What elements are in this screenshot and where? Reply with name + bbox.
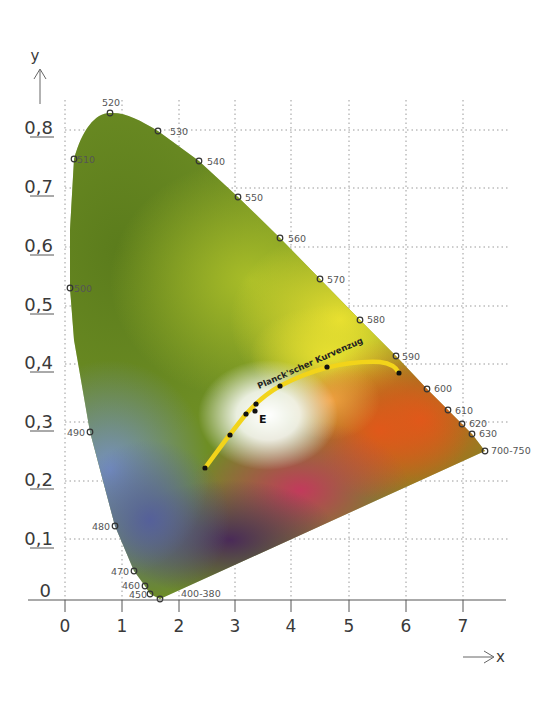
- wl-label-520: 520: [102, 97, 120, 108]
- color-gamut-fill: [0, 50, 530, 610]
- y-axis: y 0,8 0,7 0,6 0,5 0,4 0,3 0,2 0,1 0: [24, 47, 54, 601]
- wl-label-550: 550: [245, 192, 263, 203]
- x-axis-name: x: [496, 648, 505, 666]
- y-tick-labels: 0,8 0,7 0,6 0,5 0,4 0,3 0,2 0,1 0: [24, 117, 53, 601]
- y-tick-08: 0,8: [24, 117, 53, 138]
- wl-label-490: 490: [67, 427, 85, 438]
- x-tick-7: 7: [458, 616, 469, 636]
- wl-label-400: 400-380: [181, 588, 221, 599]
- y-tick-0: 0: [40, 580, 51, 601]
- x-tick-5: 5: [344, 616, 355, 636]
- x-tick-2: 2: [174, 616, 185, 636]
- wl-label-450: 450: [129, 589, 147, 600]
- x-axis: 0 1 2 3 4 5 6 7 x: [28, 600, 506, 666]
- wl-label-500: 500: [74, 283, 92, 294]
- wl-label-630: 630: [479, 428, 497, 439]
- y-tick-03: 0,3: [24, 411, 53, 432]
- wl-label-600: 600: [434, 383, 452, 394]
- y-tick-06: 0,6: [24, 235, 53, 256]
- wl-label-610: 610: [455, 405, 473, 416]
- wl-label-510: 510: [77, 154, 95, 165]
- y-tick-01: 0,1: [24, 528, 53, 549]
- wl-label-570: 570: [327, 274, 345, 285]
- y-axis-name: y: [31, 47, 40, 65]
- wl-label-470: 470: [111, 566, 129, 577]
- y-tick-04: 0,4: [24, 352, 53, 373]
- x-tick-4: 4: [286, 616, 297, 636]
- wl-label-530: 530: [170, 126, 188, 137]
- wl-label-480: 480: [92, 521, 110, 532]
- x-tick-0: 0: [60, 616, 71, 636]
- wl-label-560: 560: [288, 233, 306, 244]
- white-point-label: E: [259, 413, 267, 426]
- wl-label-700: 700-750: [491, 445, 531, 456]
- y-tick-02: 0,2: [24, 469, 53, 490]
- wl-label-590: 590: [402, 351, 420, 362]
- x-tick-3: 3: [230, 616, 241, 636]
- y-tick-05: 0,5: [24, 294, 53, 315]
- chromaticity-diagram: Planck'scher Kurvenzug E 520 530 540 550: [0, 0, 551, 715]
- wl-label-540: 540: [207, 156, 225, 167]
- x-arrow-icon: [463, 651, 494, 663]
- y-tick-07: 0,7: [24, 176, 53, 197]
- x-tick-6: 6: [401, 616, 412, 636]
- y-arrow-icon: [34, 69, 46, 104]
- wl-label-580: 580: [367, 314, 385, 325]
- x-tick-1: 1: [117, 616, 128, 636]
